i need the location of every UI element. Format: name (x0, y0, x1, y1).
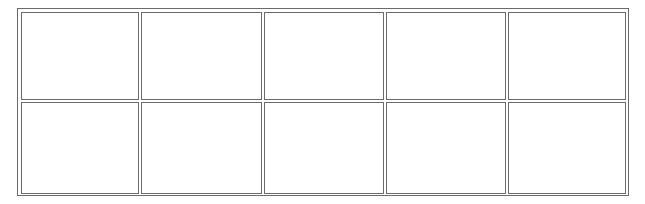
grid-cell (386, 102, 506, 194)
grid-cell (141, 102, 262, 194)
grid-cell (508, 12, 626, 100)
grid-cell (21, 12, 139, 100)
grid-cell (264, 12, 384, 100)
grid-cell (264, 102, 384, 194)
grid-cell (21, 102, 139, 194)
grid-cell (386, 12, 506, 100)
grid-cell (508, 102, 626, 194)
grid-cell (141, 12, 262, 100)
